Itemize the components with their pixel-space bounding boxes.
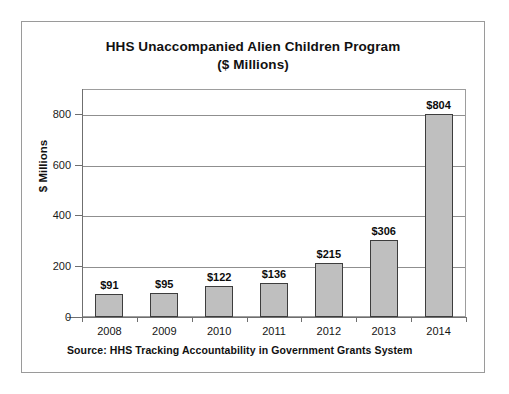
bar-2010[interactable] (205, 286, 233, 317)
y-tick-label-400: 400 (31, 210, 71, 221)
y-tick-label-0: 0 (31, 312, 71, 323)
bar-value-label: $804 (426, 99, 450, 111)
y-tick-800 (75, 114, 82, 115)
x-tick-label-2009: 2009 (134, 325, 194, 337)
x-tick (301, 317, 302, 322)
x-tick-label-2010: 2010 (189, 325, 249, 337)
x-tick (137, 317, 138, 322)
bar-2008[interactable] (95, 294, 123, 317)
x-tick (356, 317, 357, 322)
x-tick-label-2013: 2013 (354, 325, 414, 337)
bar-2009[interactable] (150, 293, 178, 317)
chart-figure: HHS Unaccompanied Alien Children Program… (0, 0, 509, 394)
x-tick-label-2014: 2014 (409, 325, 469, 337)
chart-title-line-2: ($ Millions) (21, 56, 485, 74)
y-tick-label-200: 200 (31, 261, 71, 272)
bar-slot: $136 (247, 89, 302, 317)
bar-value-label: $95 (155, 278, 173, 290)
y-tick-0 (75, 317, 82, 318)
bar-2011[interactable] (260, 283, 288, 317)
bar-2014[interactable] (425, 114, 453, 317)
bars-layer: $91 $95 $122 $136 $215 $306 $804 (82, 89, 466, 317)
bar-slot: $95 (137, 89, 192, 317)
x-tick-label-2008: 2008 (79, 325, 139, 337)
x-tick (247, 317, 248, 322)
chart-title: HHS Unaccompanied Alien Children Program… (21, 38, 485, 74)
bar-value-label: $122 (207, 271, 231, 283)
x-axis-line (67, 317, 466, 318)
bar-slot: $91 (82, 89, 137, 317)
bar-slot: $306 (356, 89, 411, 317)
bar-2012[interactable] (315, 263, 343, 317)
x-tick-label-2011: 2011 (244, 325, 304, 337)
bar-2013[interactable] (370, 240, 398, 317)
x-tick (411, 317, 412, 322)
chart-title-line-1: HHS Unaccompanied Alien Children Program (106, 39, 401, 54)
x-tick (82, 317, 83, 322)
y-tick-200 (75, 266, 82, 267)
bar-slot: $122 (192, 89, 247, 317)
y-tick-600 (75, 165, 82, 166)
x-tick-label-2012: 2012 (299, 325, 359, 337)
x-tick (192, 317, 193, 322)
bar-value-label: $91 (100, 279, 118, 291)
bar-value-label: $306 (371, 225, 395, 237)
y-tick-label-800: 800 (31, 109, 71, 120)
bar-value-label: $136 (262, 268, 286, 280)
y-tick-label-600: 600 (31, 160, 71, 171)
y-tick-400 (75, 215, 82, 216)
bar-slot: $804 (411, 89, 466, 317)
bar-slot: $215 (301, 89, 356, 317)
bar-value-label: $215 (317, 248, 341, 260)
source-note: Source: HHS Tracking Accountability in G… (67, 344, 413, 356)
x-tick (466, 317, 467, 322)
